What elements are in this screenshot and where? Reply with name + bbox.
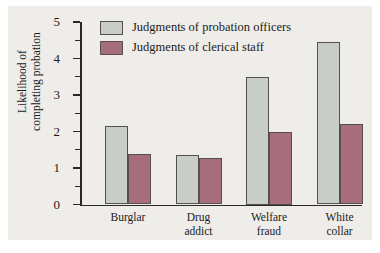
y-axis-title: Likelihood ofcompleting probation <box>16 2 43 162</box>
chart-legend: Judgments of probation officersJudgments… <box>100 20 291 60</box>
y-axis-title-line: Likelihood of <box>16 2 30 162</box>
x-axis-category-label-line: addict <box>160 224 238 238</box>
x-axis-category-label: Welfarefraud <box>230 210 308 239</box>
x-axis-category-label-line: collar <box>301 224 379 238</box>
bar <box>176 155 199 204</box>
y-axis-minor-tick <box>75 76 80 77</box>
x-axis-category-label-line: fraud <box>230 224 308 238</box>
bar <box>246 77 269 205</box>
bar <box>105 126 128 204</box>
x-axis-category-label: Drugaddict <box>160 210 238 239</box>
x-axis-category-label-line: Burglar <box>89 210 167 224</box>
x-axis-line <box>80 205 362 207</box>
bar <box>269 132 292 205</box>
legend-label: Judgments of probation officers <box>132 20 291 35</box>
x-axis-category-label-line: Drug <box>160 210 238 224</box>
legend-item: Judgments of probation officers <box>100 20 291 35</box>
y-axis-minor-tick <box>75 40 80 41</box>
y-axis-tick <box>73 94 80 96</box>
x-axis-category-label: Whitecollar <box>301 210 379 239</box>
y-axis-tick <box>73 167 80 169</box>
bar <box>128 154 151 204</box>
y-axis-tick-label: 0 <box>30 198 60 211</box>
x-axis-category-label: Burglar <box>89 210 167 224</box>
bar <box>199 158 222 205</box>
y-axis-minor-tick <box>75 149 80 150</box>
bar <box>317 42 340 204</box>
x-axis-category-label-line: Welfare <box>230 210 308 224</box>
plot-area: 012345 Likelihood ofcompleting probation… <box>8 6 372 240</box>
chart-figure: 012345 Likelihood ofcompleting probation… <box>8 6 372 240</box>
y-axis-tick <box>73 204 80 206</box>
y-axis-minor-tick <box>75 113 80 114</box>
legend-swatch <box>100 21 123 35</box>
legend-label: Judgments of clerical staff <box>132 40 264 55</box>
legend-swatch <box>100 41 123 55</box>
y-axis-tick <box>73 21 80 23</box>
y-axis-tick-label: 1 <box>30 161 60 174</box>
y-axis-minor-tick <box>75 186 80 187</box>
bar <box>340 124 363 204</box>
y-axis-tick <box>73 131 80 133</box>
legend-item: Judgments of clerical staff <box>100 40 291 55</box>
y-axis-title-line: completing probation <box>30 2 44 162</box>
x-axis-category-label-line: White <box>301 210 379 224</box>
y-axis-line <box>80 22 82 205</box>
y-axis-tick <box>73 58 80 60</box>
